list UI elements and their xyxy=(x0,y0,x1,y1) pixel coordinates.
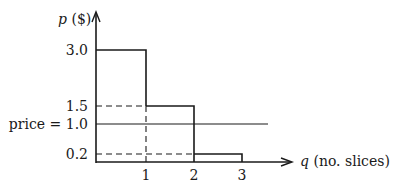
x-tick-2: 2 xyxy=(190,167,199,183)
bar-3 xyxy=(194,154,242,162)
price-label: price = 1.0 xyxy=(9,116,88,132)
step-demand-diagram: p ($) q (no. slices) 3.0 1.5 price = 1.0… xyxy=(0,0,397,186)
x-axis-label: q (no. slices) xyxy=(300,153,390,169)
dashed-guides xyxy=(96,106,194,162)
x-tick-3: 3 xyxy=(238,167,247,183)
bar-1 xyxy=(96,50,146,106)
y-tick-3: 3.0 xyxy=(66,42,88,58)
y-axis xyxy=(92,12,100,163)
x-tick-1: 1 xyxy=(142,167,151,183)
y-axis-label: p ($) xyxy=(58,11,91,27)
y-tick-1-5: 1.5 xyxy=(66,98,88,114)
y-tick-0-2: 0.2 xyxy=(66,146,88,162)
